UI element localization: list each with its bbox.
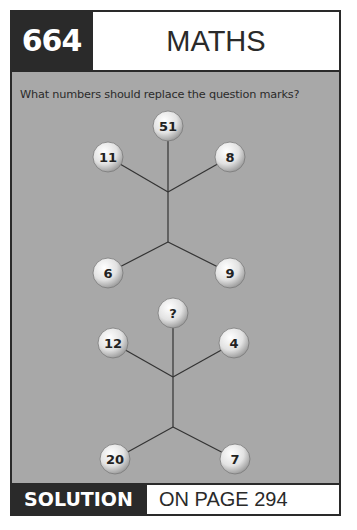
ball-lower-left: 6 — [93, 258, 123, 288]
ball-number: 12 — [104, 336, 122, 351]
ball-number: 9 — [225, 266, 234, 281]
ball-number: 4 — [229, 336, 238, 351]
ball-number: ? — [169, 306, 177, 321]
ball-number: 51 — [159, 119, 177, 134]
ball-lower-right: 9 — [215, 258, 245, 288]
ball-number: 7 — [230, 452, 239, 467]
ball-lower-left: 20 — [100, 444, 130, 474]
ball-upper-right: 4 — [219, 328, 249, 358]
ball-upper-right: 8 — [215, 142, 245, 172]
ball-number: 11 — [99, 150, 117, 165]
ball-upper-left: 12 — [98, 328, 128, 358]
ball-upper-left: 11 — [93, 142, 123, 172]
ball-number: 20 — [106, 452, 124, 467]
number-trees-diagram: 5111869?124207 — [0, 0, 357, 530]
ball-lower-right: 7 — [220, 444, 250, 474]
ball-top: 51 — [153, 111, 183, 141]
ball-number: 8 — [225, 150, 234, 165]
ball-top: ? — [158, 298, 188, 328]
ball-number: 6 — [103, 266, 112, 281]
